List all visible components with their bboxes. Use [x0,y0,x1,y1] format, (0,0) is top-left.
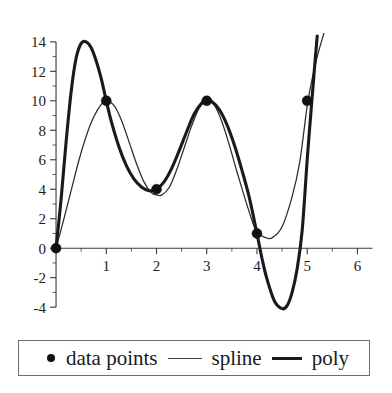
legend-label-data-points: data points [66,348,158,369]
axes-group [50,42,372,307]
y-tick-label: 6 [39,152,47,168]
data-point-marker [51,243,61,253]
x-tick-label: 3 [203,258,211,274]
data-point-marker [101,96,111,106]
data-points-group [51,96,312,253]
poly-curve [56,36,317,309]
curve-spline [56,23,327,249]
legend-label-spline: spline [212,348,262,369]
curve-poly [56,36,317,309]
spline-curve [56,23,327,249]
x-tick-label: 5 [303,258,311,274]
data-point-marker [202,96,212,106]
x-tick-label: 4 [253,258,261,274]
y-tick-label: 14 [31,34,47,50]
x-tick-label: 1 [103,258,111,274]
data-point-marker [152,184,162,194]
legend-marker-thick-line-icon [272,357,302,360]
y-tick-label: 8 [39,123,47,139]
x-tick-label: 6 [354,258,362,274]
y-tick-label: -4 [34,300,47,316]
data-point-marker [302,96,312,106]
chart-figure: -4-202468101214123456 data points spline… [0,0,392,393]
y-tick-label: 2 [39,211,47,227]
legend-marker-thin-line-icon [168,358,202,359]
legend-marker-dot-icon [47,354,55,362]
legend-entry-spline: spline [165,348,262,369]
chart-legend: data points spline poly [18,340,370,376]
legend-label-poly: poly [312,348,349,369]
y-tick-label: -2 [34,270,47,286]
legend-entry-poly: poly [269,348,349,369]
data-point-marker [252,228,262,238]
legend-entry-data-points: data points [39,348,158,369]
y-tick-label: 4 [39,182,47,198]
x-tick-label: 2 [153,258,161,274]
y-tick-label: 12 [31,64,46,80]
y-tick-label: 0 [39,241,47,257]
y-tick-label: 10 [31,93,46,109]
plot-canvas: -4-202468101214123456 [0,0,392,393]
